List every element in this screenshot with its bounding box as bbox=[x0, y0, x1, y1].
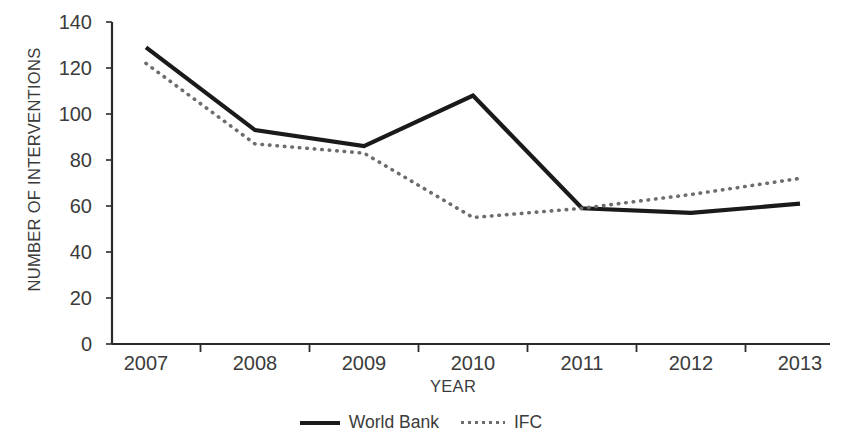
series-line-ifc bbox=[146, 63, 800, 217]
plot-area bbox=[0, 0, 842, 444]
legend-label-ifc: IFC bbox=[514, 412, 542, 433]
solid-line-swatch-icon bbox=[300, 421, 340, 425]
chart-legend: World Bank IFC bbox=[0, 412, 842, 433]
legend-entry-world-bank: World Bank bbox=[300, 412, 439, 433]
dotted-line-swatch-icon bbox=[461, 421, 505, 424]
line-chart: NUMBER OF INTERVENTIONS 0204060801001201… bbox=[0, 0, 842, 444]
legend-label-world-bank: World Bank bbox=[349, 412, 439, 433]
series-line-world-bank bbox=[146, 47, 800, 213]
x-tick-marks bbox=[201, 344, 746, 352]
legend-entry-ifc: IFC bbox=[461, 412, 542, 433]
